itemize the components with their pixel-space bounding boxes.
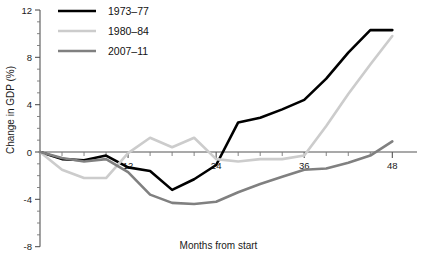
gdp-change-line-chart: -8-40481212243648Change in GDP (%)Months… (0, 0, 424, 262)
y-axis-tick-label: 12 (21, 5, 32, 16)
y-axis-tick-label: 4 (27, 99, 32, 110)
legend-label-3: 2007–11 (108, 45, 148, 57)
y-axis-tick-label: -4 (24, 194, 32, 205)
legend-label-1: 1973–77 (108, 5, 149, 17)
x-axis-title: Months from start (180, 240, 258, 251)
y-axis-tick-label: 8 (27, 52, 32, 63)
chart-plot-area: -8-40481212243648Change in GDP (%)Months… (0, 0, 424, 262)
y-axis-title: Change in GDP (%) (5, 66, 16, 154)
y-axis-tick-label: 0 (27, 147, 32, 158)
x-axis-tick-label: 48 (387, 160, 398, 171)
legend-label-2: 1980–84 (108, 25, 149, 37)
series-line-2007-11 (40, 141, 392, 204)
y-axis-tick-label: -8 (24, 241, 32, 252)
